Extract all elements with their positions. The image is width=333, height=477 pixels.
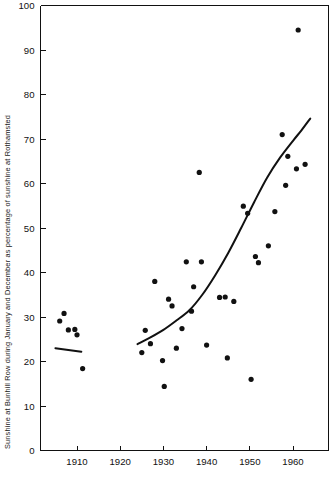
y-tick-label: 70 bbox=[24, 134, 35, 145]
x-tick-label: 1930 bbox=[153, 456, 174, 467]
data-point bbox=[72, 327, 77, 332]
data-point bbox=[217, 295, 222, 300]
x-tick-label: 1960 bbox=[282, 456, 303, 467]
data-point bbox=[241, 204, 246, 209]
chart-figure: Sunshine at Bunhill Row during January a… bbox=[0, 0, 333, 477]
y-tick-label: 20 bbox=[24, 356, 35, 367]
data-point bbox=[280, 132, 285, 137]
early-period-trend bbox=[55, 348, 81, 352]
data-point bbox=[169, 303, 174, 308]
x-tick-label: 1940 bbox=[196, 456, 217, 467]
data-point bbox=[283, 183, 288, 188]
data-point bbox=[148, 341, 153, 346]
data-point bbox=[296, 27, 301, 32]
x-tick-label: 1950 bbox=[239, 456, 260, 467]
data-point bbox=[189, 309, 194, 314]
y-tick-label: 30 bbox=[24, 312, 35, 323]
y-tick-label: 100 bbox=[18, 0, 34, 11]
data-point-group bbox=[57, 27, 308, 389]
y-tick-label: 40 bbox=[24, 267, 35, 278]
data-point bbox=[266, 243, 271, 248]
data-point bbox=[253, 254, 258, 259]
data-point bbox=[199, 259, 204, 264]
data-point bbox=[166, 297, 171, 302]
data-point bbox=[74, 332, 79, 337]
y-tick-label: 50 bbox=[24, 223, 35, 234]
data-point bbox=[66, 327, 71, 332]
data-point bbox=[204, 342, 209, 347]
data-point bbox=[225, 355, 230, 360]
data-point bbox=[249, 377, 254, 382]
y-tick-group: 0102030405060708090100 bbox=[18, 0, 45, 456]
y-tick-label: 0 bbox=[29, 445, 34, 456]
data-point bbox=[231, 299, 236, 304]
y-tick-label: 80 bbox=[24, 89, 35, 100]
data-point bbox=[160, 358, 165, 363]
data-point bbox=[80, 366, 85, 371]
data-point bbox=[179, 326, 184, 331]
fitted-curve-group bbox=[55, 119, 310, 352]
x-tick-label: 1910 bbox=[66, 456, 87, 467]
y-tick-label: 60 bbox=[24, 178, 35, 189]
data-point bbox=[184, 259, 189, 264]
data-point bbox=[272, 209, 277, 214]
data-point bbox=[303, 162, 308, 167]
data-point bbox=[61, 311, 66, 316]
data-point bbox=[285, 154, 290, 159]
data-point bbox=[174, 346, 179, 351]
data-point bbox=[57, 318, 62, 323]
main-period-exponential-trend bbox=[137, 119, 310, 345]
scatter-plot-svg: Sunshine at Bunhill Row during January a… bbox=[0, 0, 333, 477]
x-tick-group: 191019201930194019501960 bbox=[66, 446, 303, 467]
data-point bbox=[152, 279, 157, 284]
data-point bbox=[223, 294, 228, 299]
data-point bbox=[143, 328, 148, 333]
x-tick-label: 1920 bbox=[110, 456, 131, 467]
data-point bbox=[294, 166, 299, 171]
data-point bbox=[162, 384, 167, 389]
data-point bbox=[256, 260, 261, 265]
data-point bbox=[245, 211, 250, 216]
data-point bbox=[197, 170, 202, 175]
y-tick-label: 90 bbox=[24, 45, 35, 56]
y-tick-label: 10 bbox=[24, 401, 35, 412]
data-point bbox=[139, 350, 144, 355]
data-point bbox=[191, 284, 196, 289]
y-axis-label: Sunshine at Bunhill Row during January a… bbox=[3, 115, 12, 449]
